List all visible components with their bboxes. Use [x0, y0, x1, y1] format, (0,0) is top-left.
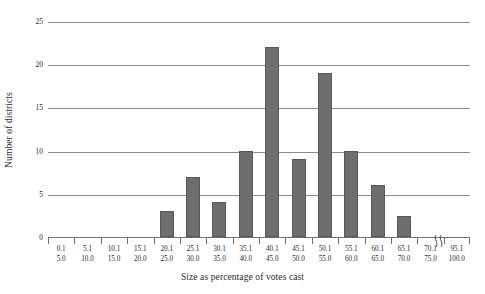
- bar: [160, 211, 174, 237]
- x-tick-label: 95.1100.0: [449, 245, 465, 264]
- axis-break-icon: [431, 234, 447, 248]
- x-tick-label: 50.155.0: [319, 245, 332, 264]
- x-tick: [154, 238, 155, 244]
- x-tick-label: 60.165.0: [371, 245, 384, 264]
- x-tick: [365, 238, 366, 244]
- plot-area: 0510152025 0.15.05.110.010.115.015.120.0…: [48, 22, 470, 238]
- y-tick-label: 20: [36, 61, 44, 69]
- x-tick: [48, 238, 49, 244]
- x-tick-label: 0.15.0: [57, 245, 66, 264]
- x-tick-label: 5.110.0: [81, 245, 94, 264]
- bar: [212, 202, 226, 237]
- x-tick: [233, 238, 234, 244]
- bar: [186, 177, 200, 237]
- x-tick: [312, 238, 313, 244]
- x-tick: [285, 238, 286, 244]
- bar: [292, 159, 306, 237]
- x-tick-label: 45.150.0: [292, 245, 305, 264]
- x-tick-label: 30.135.0: [213, 245, 226, 264]
- x-tick-label: 25.130.0: [187, 245, 200, 264]
- bar: [397, 216, 411, 237]
- bar: [265, 47, 279, 237]
- y-axis-title: Number of districts: [4, 92, 14, 168]
- x-tick: [259, 238, 260, 244]
- x-tick: [417, 238, 418, 244]
- x-tick: [127, 238, 128, 244]
- y-tick-label: 5: [39, 191, 43, 199]
- x-tick-label: 40.145.0: [266, 245, 279, 264]
- y-tick-label: 10: [36, 148, 44, 156]
- x-tick: [101, 238, 102, 244]
- x-tick-label: 15.120.0: [134, 245, 147, 264]
- x-tick: [206, 238, 207, 244]
- x-tick: [469, 238, 470, 244]
- bar: [371, 185, 385, 237]
- x-tick: [74, 238, 75, 244]
- bar-series: [48, 22, 470, 238]
- bar: [344, 151, 358, 237]
- bar: [318, 73, 332, 237]
- x-tick-label: 20.125.0: [160, 245, 173, 264]
- x-tick-label: 65.170.0: [398, 245, 411, 264]
- y-tick-label: 15: [36, 105, 44, 113]
- x-axis-title: Size as percentage of votes cast: [0, 272, 485, 282]
- y-tick-label: 0: [39, 234, 43, 242]
- bar: [239, 151, 253, 237]
- x-tick: [338, 238, 339, 244]
- y-tick-label: 25: [36, 18, 44, 26]
- x-tick-label: 55.160.0: [345, 245, 358, 264]
- x-tick: [391, 238, 392, 244]
- x-tick-label: 35.140.0: [240, 245, 253, 264]
- x-tick-label: 10.115.0: [108, 245, 121, 264]
- x-tick: [180, 238, 181, 244]
- histogram-figure: Number of districts 0510152025 0.15.05.1…: [0, 0, 485, 294]
